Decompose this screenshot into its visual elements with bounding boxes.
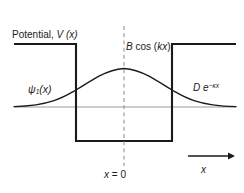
x-axis-label-text: x [201, 164, 206, 175]
decay-amplitude: D [193, 82, 200, 93]
potential-label: Potential, V (x) [12, 30, 78, 40]
decay-solution-label: D e−κx [193, 83, 219, 93]
origin-equals: = [112, 169, 118, 180]
inside-solution-function: cos ( [135, 41, 157, 52]
wavefunction-argument: (x) [39, 83, 51, 95]
origin-value: 0 [120, 169, 126, 180]
origin-label: x = 0 [104, 170, 126, 180]
inside-solution-amplitude: B [126, 41, 133, 52]
inside-solution-paren: ) [167, 41, 170, 52]
potential-label-symbol: V [56, 29, 63, 40]
x-axis-label: x [201, 165, 206, 175]
wavefunction-symbol: ψ [28, 83, 36, 95]
inside-solution-argument: kx [157, 41, 167, 52]
inside-solution-label: B cos (kx) [126, 42, 170, 52]
decay-exponent: −κx [209, 82, 219, 89]
potential-label-text: Potential, [12, 29, 54, 40]
origin-variable: x [104, 169, 109, 180]
potential-label-arg: (x) [66, 29, 78, 40]
x-axis-arrow-head [228, 152, 235, 159]
wavefunction-label: ψ1(x) [28, 84, 52, 96]
finite-square-well-figure: Potential, V (x) B cos (kx) ψ1(x) D e−κx… [0, 0, 244, 193]
